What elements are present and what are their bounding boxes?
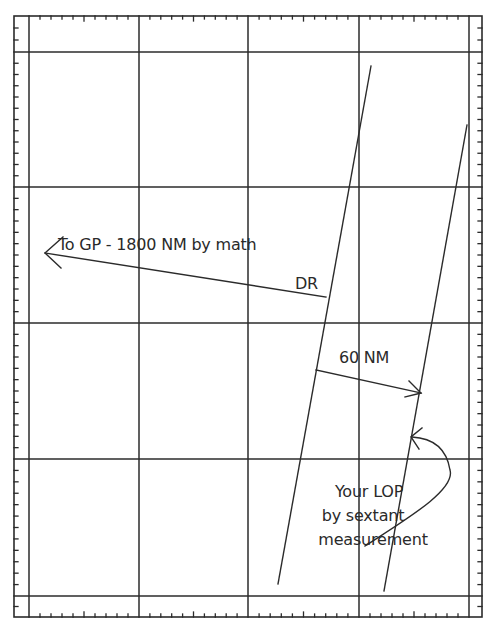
lop-caption-line-3: measurement: [318, 532, 427, 548]
intercept-arrow: [316, 370, 421, 397]
grid-vertical-lines: [29, 16, 469, 617]
distance-label: 60 NM: [339, 350, 389, 366]
dr-label: DR: [295, 276, 318, 292]
lop-caption-line-1: Your LOP: [335, 484, 403, 500]
lop-caption-line-2: by sextant: [322, 508, 405, 524]
gp-direction-label: To GP - 1800 NM by math: [58, 237, 257, 253]
